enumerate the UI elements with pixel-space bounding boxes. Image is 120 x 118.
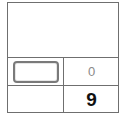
row2-left-cell xyxy=(8,86,63,113)
input-slot[interactable] xyxy=(13,61,59,83)
top-cell xyxy=(8,3,118,57)
row2-right-value: 9 xyxy=(64,89,119,111)
row1-right-value: 0 xyxy=(64,64,119,80)
row1-left-cell xyxy=(8,58,63,85)
grid-box: 0 9 xyxy=(7,2,119,113)
